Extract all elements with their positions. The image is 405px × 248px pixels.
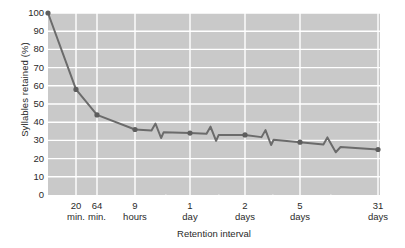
plot-area (0, 0, 405, 248)
x-axis-break-mark (156, 194, 175, 209)
x-axis-break-mark (209, 194, 228, 209)
x-axis-break-mark (263, 194, 282, 209)
data-point-marker (187, 131, 192, 136)
data-point-marker (297, 140, 302, 145)
x-axis-title: Retention interval (177, 228, 251, 239)
data-point-marker (73, 87, 78, 92)
data-point-marker (45, 10, 50, 15)
forgetting-curve-chart: Syllables retained (%) 10090807060504030… (0, 0, 405, 248)
data-point-marker (242, 132, 247, 137)
data-point-marker (375, 147, 380, 152)
x-axis-break-mark (321, 194, 340, 209)
data-point-marker (94, 112, 99, 117)
data-point-marker (132, 127, 137, 132)
x-axis-title-wrap: Retention interval (48, 228, 380, 239)
